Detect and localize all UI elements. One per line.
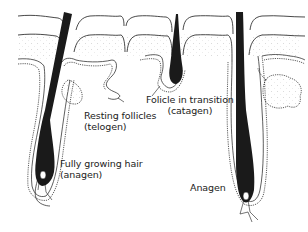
label-catagen: Folicle in transition (catagen) — [146, 94, 234, 116]
label-anagen-left-phase: (anagen) — [60, 169, 143, 180]
label-anagen-left: Fully growing hair (anagen) — [60, 158, 143, 180]
label-catagen-title: Folicle in transition — [146, 94, 234, 105]
label-anagen-left-title: Fully growing hair — [60, 158, 143, 169]
label-catagen-phase: (catagen) — [146, 105, 234, 116]
label-anagen-right-title: Anagen — [190, 182, 226, 193]
label-telogen-phase: (telogen) — [84, 121, 156, 132]
follicle-sheaths — [18, 55, 305, 206]
label-anagen-right: Anagen — [190, 182, 226, 193]
